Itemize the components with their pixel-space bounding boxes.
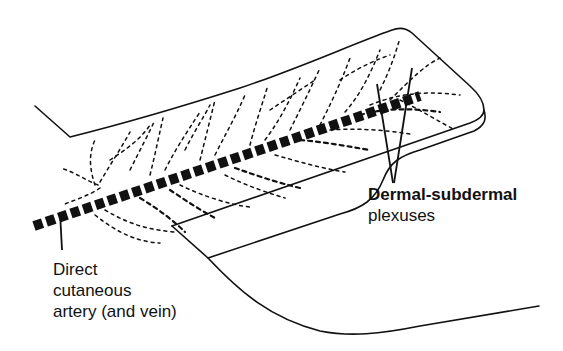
plexus-vessel [165, 112, 200, 170]
plexus-leader-line [394, 68, 412, 183]
plexus-vessel [300, 140, 370, 150]
plexus-vessel [105, 210, 175, 232]
plexus-vessel [225, 175, 285, 198]
artery-label-line: artery (and vein) [53, 301, 177, 322]
plexus-vessel [215, 95, 245, 155]
plexus-label-line: Dermal-subdermal [368, 184, 517, 205]
plexus-vessel [340, 55, 390, 80]
plexus-vessel [235, 168, 300, 188]
plexus-vessel [130, 120, 155, 170]
plexus-vessel [185, 105, 210, 150]
plexus-label: Dermal-subdermal plexuses [368, 184, 517, 226]
plexus-vessel [380, 38, 400, 90]
wound-bed-contour [172, 226, 539, 334]
plexus-vessel [62, 188, 100, 205]
artery-label-line: cutaneous [53, 280, 177, 301]
plexus-vessel [250, 85, 268, 145]
plexus-vessel [400, 100, 455, 130]
artery-label: Direct cutaneous artery (and vein) [53, 259, 177, 322]
plexus-vessel [320, 58, 350, 125]
plexus-vessel [100, 132, 130, 182]
plexus-vessel [200, 100, 215, 160]
plexus-vessel [270, 80, 315, 110]
plexus-vessel [140, 198, 185, 232]
plexus-vessel [330, 129, 410, 134]
plexus-label-line: plexuses [368, 205, 517, 226]
plexus-vessel [90, 140, 95, 185]
plexus-vessel [170, 190, 215, 218]
artery-label-line: Direct [53, 259, 177, 280]
plexus-vessel [290, 68, 320, 130]
